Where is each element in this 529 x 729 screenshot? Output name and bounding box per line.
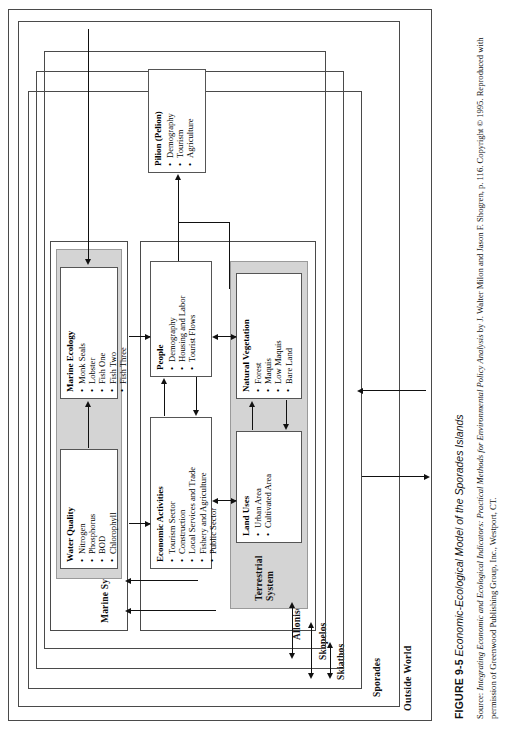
arrowhead-marine-from-skopelos — [125, 578, 131, 584]
list-item: Agriculture — [185, 76, 195, 166]
list-item: Maquis — [263, 280, 273, 392]
caption-source-line: Source: Integrating Economic and Ecologi… — [474, 7, 499, 719]
source-prefix: Source: — [475, 691, 485, 719]
arrowhead-landuses-down — [231, 498, 237, 504]
list-item: Forest — [253, 280, 263, 392]
list-item: Demography — [167, 268, 177, 370]
arrowhead-vegetation — [249, 401, 255, 407]
arrowhead-pilion — [175, 174, 181, 180]
arrowhead-allonisos-right2 — [289, 602, 295, 608]
arrowhead-skiathos-left2 — [308, 673, 314, 679]
arrow-outsideworld-out — [362, 476, 428, 477]
arrowhead-skiathos-left — [327, 673, 333, 679]
caption-figure-number: FIGURE 9-5 — [453, 659, 465, 719]
label-outside-world: Outside World — [402, 646, 413, 712]
list-item: Nitrogen — [77, 456, 87, 562]
box-land-uses[interactable]: Land Uses Urban Area Cultivated Area — [236, 431, 302, 543]
pilion-title: Pilion (Pelion) — [153, 76, 164, 166]
list-item: Fish Three — [118, 274, 128, 392]
arrowhead-economic-up — [212, 498, 218, 504]
box-pilion[interactable]: Pilion (Pelion) Demography Tourism Agric… — [148, 69, 206, 173]
arrowhead-out-of-sporades — [424, 474, 430, 480]
land-uses-title: Land Uses — [241, 438, 252, 536]
arrowhead-marineecology — [85, 401, 91, 407]
arrow-waterquality-to-marineecology — [88, 406, 89, 448]
arrow-outsideworld-in — [360, 390, 426, 391]
list-item: Urban Area — [253, 438, 263, 536]
list-item: Fishery and Agriculture — [198, 424, 208, 562]
arrow-vegetation-to-landuses — [286, 400, 287, 424]
people-title: People — [155, 268, 166, 370]
arrow-people-to-pilion — [178, 179, 179, 261]
water-quality-list: Nitrogen Phosphorus BOD Chlorophyll — [77, 456, 118, 562]
marine-ecology-list: Monk Seals Lobster Fish One Fish Two Fis… — [77, 274, 128, 392]
figure-stage: Outside World Sporades Skiathos Skopelos… — [0, 0, 529, 729]
box-people[interactable]: People Demography Housing and Labor Tour… — [150, 261, 212, 377]
arrow-people-to-economic — [196, 377, 197, 410]
list-item: Phosphorus — [87, 456, 97, 562]
arrow-skiathos-skopelos — [330, 647, 331, 673]
diagram-canvas: Outside World Sporades Skiathos Skopelos… — [0, 0, 440, 729]
list-item: Tourist Flows — [187, 268, 197, 370]
list-item: Low Maquis — [273, 280, 283, 392]
people-list: Demography Housing and Labor Tourist Flo… — [167, 268, 198, 370]
arrow-outsideworld-to-marineecology — [88, 29, 89, 259]
list-item: Fish Two — [108, 274, 118, 392]
arrow-skopelos-to-marine — [128, 580, 198, 581]
source-book-title: Integrating Economic and Ecological Indi… — [475, 334, 485, 690]
figure-caption: FIGURE 9-5 Economic-Ecological Model of … — [452, 7, 499, 719]
arrowhead-marine-from-skiathos — [125, 608, 131, 614]
arrowhead-into-sporades — [357, 388, 363, 394]
arrowhead-vegetation-down — [231, 334, 237, 340]
label-sporades: Sporades — [372, 658, 382, 697]
box-marine-ecology[interactable]: Marine Ecology Monk Seals Lobster Fish O… — [60, 267, 118, 399]
arrow-economic-to-people — [164, 383, 165, 416]
list-item: Tourism — [175, 76, 185, 166]
arrowhead-people-from-marine — [145, 334, 151, 340]
arrowhead-landuses — [283, 424, 289, 430]
box-economic-activities[interactable]: Economic Activities Tourism Sector Const… — [150, 417, 212, 569]
arrowhead-marineecology-external — [85, 259, 91, 265]
water-quality-title: Water Quality — [65, 456, 76, 562]
arrow-skopelos-allonisos — [292, 607, 293, 653]
arrowhead-people — [161, 378, 167, 384]
caption-title-text: Economic-Ecological Model of the Sporade… — [453, 414, 465, 656]
natural-vegetation-list: Forest Maquis Low Maquis Bare Land — [253, 280, 294, 392]
label-terrestrial-system: TerrestrialSystem — [254, 556, 276, 601]
list-item: Housing and Labor — [177, 268, 187, 370]
box-natural-vegetation[interactable]: Natural Vegetation Forest Maquis Low Maq… — [236, 273, 302, 399]
list-item: Public Sector — [208, 424, 218, 562]
list-item: Lobster — [87, 274, 97, 392]
natural-vegetation-title: Natural Vegetation — [241, 280, 252, 392]
box-water-quality[interactable]: Water Quality Nitrogen Phosphorus BOD Ch… — [60, 449, 118, 569]
arrow-landuses-to-vegetation — [252, 406, 253, 430]
arrowhead-allonisos-right — [308, 622, 314, 628]
list-item: Chlorophyll — [108, 456, 118, 562]
list-item: Cultivated Area — [263, 438, 273, 536]
arrow-skiathos-allonisos — [311, 627, 312, 673]
list-item: Demography — [165, 76, 175, 166]
arrowhead-skopelos-left — [289, 653, 295, 659]
arrowhead-people-up — [212, 334, 218, 340]
list-item: Local Services and Trade — [187, 424, 197, 562]
arrowhead-skopelos-right — [327, 642, 333, 648]
list-item: Tourism Sector — [167, 424, 177, 562]
arrow-pilion-return-horz — [229, 222, 230, 289]
arrowhead-economic — [193, 410, 199, 416]
list-item: Monk Seals — [77, 274, 87, 392]
caption-title-line: FIGURE 9-5 Economic-Ecological Model of … — [452, 7, 467, 719]
land-uses-list: Urban Area Cultivated Area — [253, 438, 273, 536]
economic-activities-list: Tourism Sector Construction Local Servic… — [167, 424, 218, 562]
pilion-list: Demography Tourism Agriculture — [165, 76, 196, 166]
list-item: Fish One — [97, 274, 107, 392]
arrowhead-economic-from-marine — [145, 521, 151, 527]
economic-activities-title: Economic Activities — [155, 424, 166, 562]
list-item: Bare Land — [284, 280, 294, 392]
list-item: Construction — [177, 424, 187, 562]
list-item: BOD — [97, 456, 107, 562]
arrow-pilion-return-vert — [178, 222, 230, 223]
arrow-skiathos-to-marine — [128, 610, 216, 611]
marine-ecology-title: Marine Ecology — [65, 274, 76, 392]
